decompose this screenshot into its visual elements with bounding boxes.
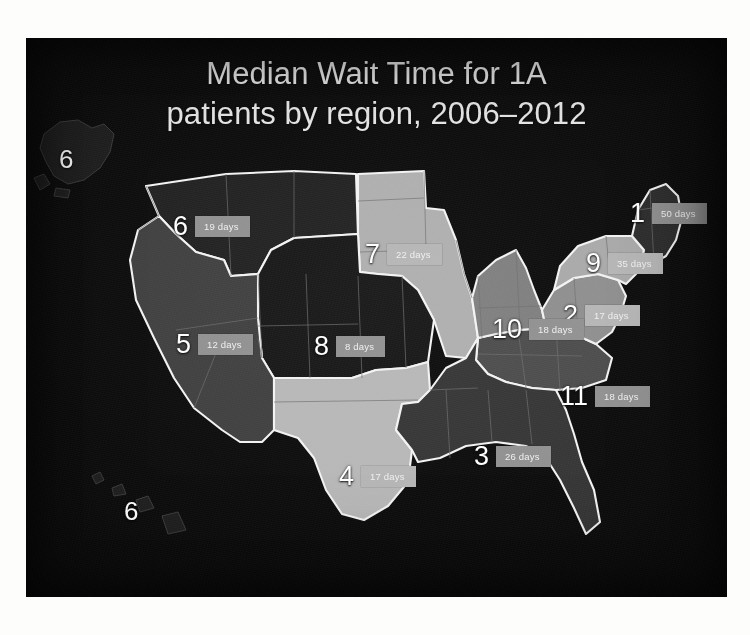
region-badge-6: 19 days [195, 216, 250, 238]
region-badge-2: 17 days [585, 305, 640, 327]
region-number-alaska: 6 [59, 146, 73, 173]
region-marker-10[interactable]: 10 18 days [492, 316, 584, 343]
title-line-2: patients by region, 2006–2012 [26, 94, 727, 134]
presentation-slide: 1 50 days 9 35 days 2 17 days 10 18 days… [26, 38, 727, 597]
hawaii-inset-shape[interactable] [92, 472, 186, 534]
region-marker-alaska[interactable]: 6 [59, 146, 73, 173]
scanned-page: 1 50 days 9 35 days 2 17 days 10 18 days… [0, 0, 750, 635]
slide-title: Median Wait Time for 1A patients by regi… [26, 54, 727, 134]
region-number-5: 5 [176, 331, 191, 358]
region-marker-3[interactable]: 3 26 days [474, 443, 551, 470]
region-marker-7[interactable]: 7 22 days [365, 241, 442, 268]
region-number-hawaii: 6 [124, 498, 138, 525]
region-marker-11[interactable]: 11 18 days [560, 383, 650, 410]
region-number-6: 6 [173, 213, 188, 240]
region-badge-3: 26 days [496, 446, 551, 468]
region-number-7: 7 [365, 241, 380, 268]
region-marker-5[interactable]: 5 12 days [176, 331, 253, 358]
region-badge-4: 17 days [361, 466, 416, 488]
region-badge-7: 22 days [387, 244, 442, 266]
region-marker-9[interactable]: 9 35 days [586, 250, 663, 277]
region-badge-9: 35 days [608, 253, 663, 275]
region-badge-1: 50 days [652, 203, 707, 225]
region-badge-10: 18 days [529, 319, 584, 341]
region-badge-11: 18 days [595, 386, 650, 408]
region-marker-1[interactable]: 1 50 days [630, 200, 707, 227]
region-number-4: 4 [339, 463, 354, 490]
region-number-8: 8 [314, 333, 329, 360]
region-badge-8: 8 days [336, 336, 385, 358]
region-marker-6[interactable]: 6 19 days [173, 213, 250, 240]
region-number-11: 11 [560, 383, 588, 410]
region-number-9: 9 [586, 250, 601, 277]
region-marker-4[interactable]: 4 17 days [339, 463, 416, 490]
region-badge-5: 12 days [198, 334, 253, 356]
title-line-1: Median Wait Time for 1A [26, 54, 727, 94]
region-number-10: 10 [492, 316, 522, 343]
region-number-1: 1 [630, 200, 645, 227]
region-number-3: 3 [474, 443, 489, 470]
region-marker-hawaii[interactable]: 6 [124, 498, 138, 525]
region-marker-8[interactable]: 8 8 days [314, 333, 385, 360]
